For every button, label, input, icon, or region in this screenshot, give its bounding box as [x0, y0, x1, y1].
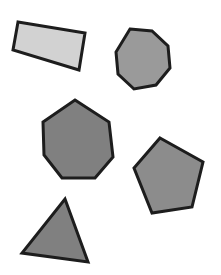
- shapes-canvas: [0, 0, 221, 275]
- shapes-svg: [0, 0, 221, 275]
